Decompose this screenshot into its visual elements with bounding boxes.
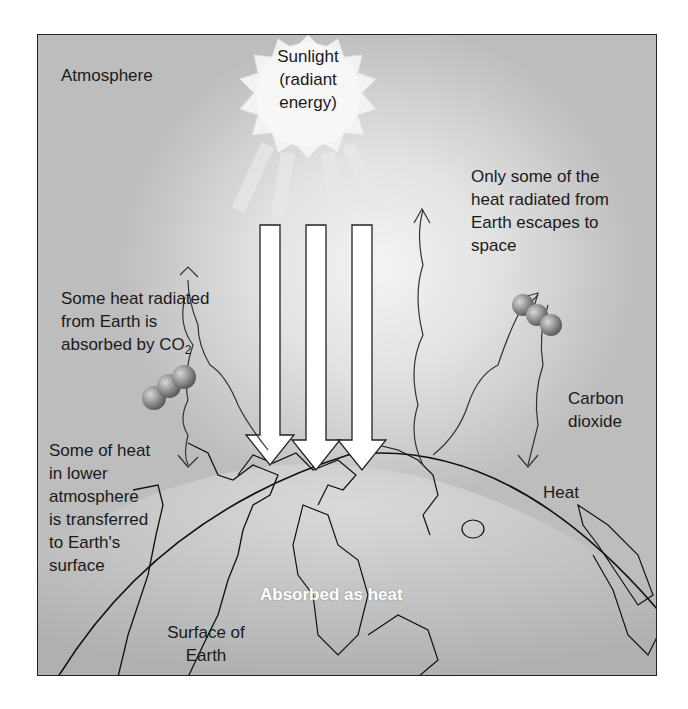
label-sunlight: Sunlight (radiant energy) <box>266 45 350 114</box>
label-line: heat radiated from <box>471 188 609 211</box>
label-line: atmosphere <box>49 485 150 508</box>
label-line: absorbed by CO2 <box>61 333 209 356</box>
label-line: is transferred <box>49 508 150 531</box>
label-surface-of-earth: Surface of Earth <box>156 621 256 667</box>
label-heat-escapes: Only some of the heat radiated from Eart… <box>471 165 609 257</box>
sunlight-arrow <box>246 225 294 465</box>
label-heat: Heat <box>543 481 579 504</box>
label-line: Earth escapes to <box>471 211 609 234</box>
label-sunlight-line: (radiant <box>266 68 350 91</box>
label-atmosphere: Atmosphere <box>61 64 153 87</box>
label-sunlight-line: Sunlight <box>266 45 350 68</box>
label-text: absorbed by CO <box>61 335 185 354</box>
label-line: space <box>471 234 609 257</box>
label-line: to Earth's <box>49 531 150 554</box>
label-line: Only some of the <box>471 165 609 188</box>
label-line: Some heat radiated <box>61 287 209 310</box>
sunlight-arrow <box>292 225 340 470</box>
label-lower-atmosphere: Some of heat in lower atmosphere is tran… <box>49 439 150 577</box>
label-line: dioxide <box>568 410 624 433</box>
label-carbon-dioxide: Carbon dioxide <box>568 387 624 433</box>
diagram-frame: Atmosphere Sunlight (radiant energy) Onl… <box>37 34 657 676</box>
co2-molecule-right <box>512 294 562 336</box>
label-sunlight-line: energy) <box>266 91 350 114</box>
co2-molecule-left <box>142 365 196 410</box>
label-absorbed-by-co2: Some heat radiated from Earth is absorbe… <box>61 287 209 356</box>
sunlight-arrow <box>338 225 386 470</box>
label-absorbed-as-heat: Absorbed as heat <box>260 583 403 606</box>
label-line: Surface of <box>156 621 256 644</box>
label-line: Some of heat <box>49 439 150 462</box>
label-line: surface <box>49 554 150 577</box>
label-line: Earth <box>156 644 256 667</box>
sunlight-arrows <box>246 225 386 470</box>
subscript: 2 <box>185 343 192 357</box>
label-line: Carbon <box>568 387 624 410</box>
label-line: from Earth is <box>61 310 209 333</box>
label-line: in lower <box>49 462 150 485</box>
